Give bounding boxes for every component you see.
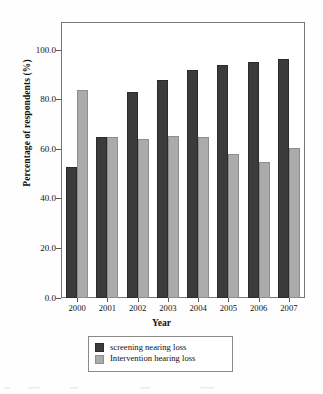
scan-artifact (0, 384, 323, 390)
legend-label-screening: screening nearing loss (110, 343, 186, 352)
bar-2000-intervention (77, 90, 88, 298)
y-tick-mark (56, 298, 61, 299)
x-axis-title: Year (0, 318, 323, 328)
dark-swatch-icon (95, 343, 104, 352)
bar-group-2002 (127, 23, 149, 298)
y-tick-mark (56, 99, 61, 100)
bar-group-2001 (96, 23, 118, 298)
legend-label-intervention: Intervention hearing loss (110, 354, 195, 363)
bar-group-2005 (217, 23, 239, 298)
bar-2005-intervention (228, 154, 239, 298)
x-tick-label-2007: 2007 (269, 303, 309, 313)
x-tick-mark-2003 (168, 298, 169, 302)
x-tick-mark-2000 (77, 298, 78, 302)
bar-series-container (62, 23, 304, 298)
y-tick-mark (56, 50, 61, 51)
x-tick-mark-2006 (259, 298, 260, 302)
bar-2006-intervention (259, 162, 270, 298)
bar-2007-intervention (289, 148, 300, 298)
bar-group-2000 (66, 23, 88, 298)
bar-2003-screening (157, 80, 168, 298)
bar-group-2004 (187, 23, 209, 298)
gray-swatch-icon (95, 355, 104, 364)
x-tick-mark-2005 (228, 298, 229, 302)
legend-item-intervention: Intervention hearing loss (95, 354, 226, 363)
bar-2000-screening (66, 167, 77, 298)
bar-2004-screening (187, 70, 198, 298)
x-tick-mark-2001 (107, 298, 108, 302)
bar-group-2007 (278, 23, 300, 298)
chart-legend: screening nearing loss Intervention hear… (88, 336, 233, 372)
bar-group-2006 (248, 23, 270, 298)
bar-2002-screening (127, 92, 138, 298)
bar-2005-screening (217, 65, 228, 298)
y-tick-mark (56, 149, 61, 150)
bar-2001-screening (96, 137, 107, 298)
bar-2006-screening (248, 62, 259, 298)
bar-group-2003 (157, 23, 179, 298)
x-tick-mark-2004 (198, 298, 199, 302)
x-tick-mark-2002 (138, 298, 139, 302)
bar-2007-screening (278, 59, 289, 298)
bar-chart-figure: Percentage of respondents (%) 0.020.040.… (0, 0, 323, 394)
y-tick-mark (56, 248, 61, 249)
bar-2001-intervention (107, 137, 118, 298)
y-tick-mark (56, 198, 61, 199)
legend-item-screening: screening nearing loss (95, 343, 226, 352)
x-tick-mark-2007 (289, 298, 290, 302)
bar-2002-intervention (138, 139, 149, 298)
y-axis-title: Percentage of respondents (%) (22, 8, 32, 238)
bar-2003-intervention (168, 136, 179, 298)
bar-2004-intervention (198, 137, 209, 298)
